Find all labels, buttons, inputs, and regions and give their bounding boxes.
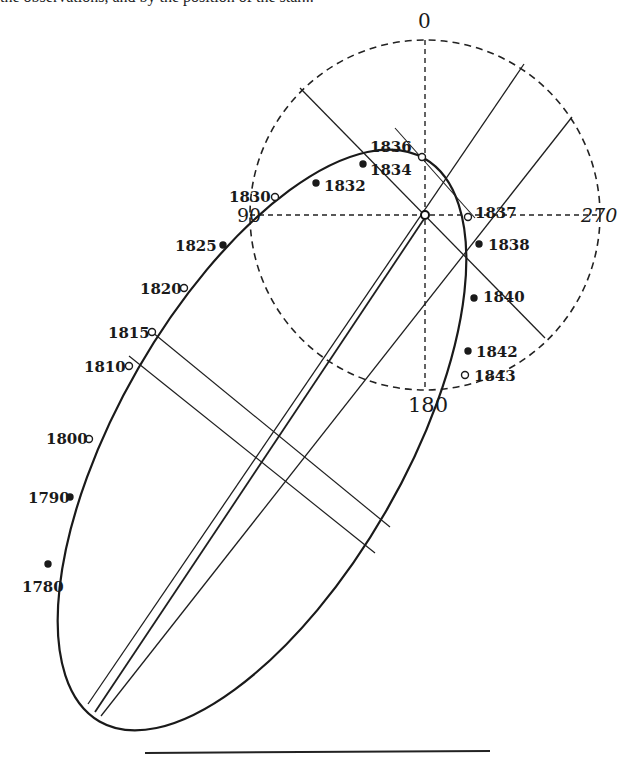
epoch-label-1800: 1800	[46, 430, 88, 448]
construction-lines	[88, 64, 572, 716]
epoch-marker-1837	[465, 214, 472, 221]
epoch-marker-1780	[45, 561, 51, 567]
epoch-label-1840: 1840	[483, 288, 525, 306]
conjugate-line-a	[152, 332, 390, 527]
epoch-label-1834: 1834	[370, 161, 412, 179]
label-180: 180	[408, 393, 448, 417]
major-axis-line-a	[88, 64, 524, 704]
epoch-label-1838: 1838	[488, 236, 530, 254]
epoch-marker-1836	[419, 154, 426, 161]
epoch-marker-1810	[126, 363, 133, 370]
epoch-label-1815: 1815	[108, 324, 150, 342]
epoch-label-1825: 1825	[175, 237, 217, 255]
apparent-orbit-ellipse	[0, 87, 548, 767]
epoch-label-1820: 1820	[140, 280, 182, 298]
epoch-label-1832: 1832	[324, 177, 366, 195]
label-270: 270	[580, 204, 617, 226]
label-0: 0	[418, 9, 431, 33]
epoch-marker-1825	[220, 242, 226, 248]
epoch-markers: 1780179018001810181518201825183018321834…	[22, 138, 530, 596]
epoch-marker-1843	[462, 372, 469, 379]
epoch-marker-1840	[471, 295, 477, 301]
primary-star-marker	[421, 211, 429, 219]
epoch-label-1843: 1843	[474, 367, 516, 385]
epoch-label-1790: 1790	[28, 489, 70, 507]
epoch-label-1810: 1810	[84, 358, 126, 376]
epoch-label-1842: 1842	[476, 343, 518, 361]
epoch-marker-1842	[465, 348, 471, 354]
bottom-rule	[145, 751, 490, 753]
epoch-label-1837: 1837	[475, 204, 517, 222]
epoch-marker-1832	[313, 180, 319, 186]
epoch-marker-1834	[360, 161, 366, 167]
epoch-label-1836: 1836	[370, 138, 412, 156]
epoch-marker-1830	[272, 194, 279, 201]
epoch-label-1780: 1780	[22, 578, 64, 596]
epoch-marker-1838	[476, 241, 482, 247]
orbit-diagram: 0 90 270 180 178017901800181018151820182…	[0, 0, 638, 767]
epoch-label-1830: 1830	[229, 188, 271, 206]
